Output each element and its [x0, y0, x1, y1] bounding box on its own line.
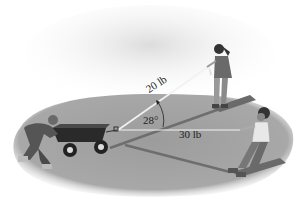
physics-illustration — [0, 0, 302, 206]
angle-label: 28° — [143, 114, 158, 126]
force-label-30lb: 30 lb — [179, 128, 201, 140]
